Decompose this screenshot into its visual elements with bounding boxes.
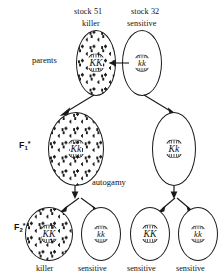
nucleus-arc-bottom (166, 154, 182, 158)
parent-right-phenotype-label: sensitive (127, 20, 157, 28)
parent-left-stock-label: stock 51 (74, 8, 102, 16)
f2-cell-1: KK (25, 207, 73, 261)
nucleus-f2-1: KK (41, 225, 57, 243)
nucleus-arc-bottom (88, 68, 104, 72)
f2-phenotype-1: killer (36, 265, 53, 273)
f2-4-genotype: kk (194, 229, 202, 238)
nucleus-f2-2: kk (94, 226, 108, 243)
f2-phenotype-2: sensitive (78, 265, 107, 273)
nucleus-arc-bottom (68, 154, 84, 158)
f2-cell-4: kk (178, 207, 218, 261)
parent-right-stock-label: stock 32 (131, 8, 159, 16)
nucleus-arc-bottom (191, 239, 205, 243)
autogamy-label: autogamy (92, 178, 126, 187)
nucleus-f1-left: Kk (68, 140, 84, 158)
genetics-inheritance-diagram: stock 51 stock 32 killer sensitive paren… (0, 0, 220, 278)
nucleus-arc-bottom (142, 239, 158, 243)
generation-label-f2: F2* (14, 222, 25, 233)
nucleus-f2-3: KK (142, 225, 158, 243)
f2-3-genotype: KK (143, 229, 156, 239)
nucleus-parent-killer: KK (88, 54, 104, 72)
f1-cell-right: Kk (152, 112, 196, 186)
nucleus-arc-bottom (41, 239, 57, 243)
generation-label-parents: parents (32, 56, 57, 65)
nucleus-f1-right: Kk (166, 140, 182, 158)
f2-2-genotype: kk (97, 229, 105, 238)
parent-sensitive-genotype: kk (138, 58, 146, 67)
generation-label-f1: F1* (19, 140, 30, 151)
parent-killer-genotype: KK (89, 58, 102, 68)
f2-cell-2: kk (81, 207, 121, 261)
f1-right-genotype: Kk (168, 144, 179, 154)
f2-1-genotype: KK (42, 229, 55, 239)
f1-left-genotype: Kk (70, 144, 81, 154)
nucleus-f2-4: kk (191, 226, 205, 243)
f2-cell-3: KK (130, 207, 170, 261)
nucleus-arc-bottom (94, 239, 108, 243)
f1-superscript: * (28, 140, 31, 147)
conjugation-arrow (106, 58, 130, 68)
f2-phenotype-4: sensitive (176, 265, 205, 273)
f1-cell-left: Kk (48, 112, 104, 186)
nucleus-arc-bottom (135, 68, 149, 72)
parent-left-phenotype-label: killer (82, 20, 100, 28)
nucleus-parent-sensitive: kk (135, 55, 149, 72)
f2-phenotype-3: sensitive (127, 265, 156, 273)
